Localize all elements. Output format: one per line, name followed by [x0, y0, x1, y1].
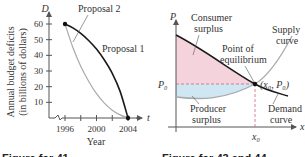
producer-surplus-label-2: surplus	[192, 114, 221, 125]
supply-curve-label-2: curve	[276, 35, 299, 46]
equilibrium-coordinates-label: (x₀, P₀)	[260, 79, 290, 91]
end-point	[126, 116, 130, 120]
figure-canvas: Annual budget deficits (in billions of d…	[0, 0, 305, 157]
proposal-1-line	[65, 24, 128, 118]
x-tick-label: 1996	[56, 124, 75, 134]
start-point	[63, 22, 67, 26]
x-tick-label: 2004	[119, 124, 138, 134]
supply-curve-label-1: Supply	[272, 24, 300, 35]
p-axis-variable: P	[169, 11, 176, 22]
y-axis-title-line-1: Annual budget deficits	[5, 26, 16, 117]
series-group	[63, 22, 130, 120]
demand-curve-label-1: Demand	[268, 103, 302, 114]
producer-surplus-region	[176, 84, 255, 99]
y-tick-label: 50	[34, 35, 44, 45]
equilibrium-label-2: equilibrium	[220, 54, 267, 65]
budget-deficit-chart: Annual budget deficits (in billions of d…	[5, 3, 150, 147]
x0-tick-label: x₀	[251, 131, 260, 142]
y-tick-label: 60	[34, 19, 44, 29]
y-tick-label: 40	[34, 50, 44, 60]
legend-proposal-1-label: Proposal 1	[102, 43, 145, 54]
x-axis-variable: t	[147, 112, 150, 123]
right-figure-caption: Figure for 43 and 44	[162, 152, 267, 157]
proposal-2-line	[65, 24, 128, 118]
consumer-surplus-label-2: surplus	[194, 23, 223, 34]
x-tick-label: 2000	[88, 124, 107, 134]
p0-tick-label: P₀	[157, 79, 168, 90]
y-axis-title-line-2: (in billions of dollars)	[17, 28, 29, 116]
supply-demand-chart: P x P₀ x₀ Consumer surplus Supply curve …	[157, 11, 305, 142]
left-figure-caption: Figure for 41	[2, 152, 69, 157]
y-tick-label: 10	[34, 97, 44, 107]
demand-curve-label-2: curve	[270, 114, 293, 125]
legend-proposal-2-label: Proposal 2	[78, 3, 121, 14]
y-axis-title: Annual budget deficits (in billions of d…	[5, 26, 29, 117]
producer-surplus-label-1: Producer	[190, 103, 227, 114]
x-axis-title: Year	[87, 136, 106, 147]
y-axis-variable: D	[40, 3, 49, 14]
equilibrium-label-1: Point of	[222, 43, 255, 54]
y-tick-label: 30	[34, 66, 44, 76]
consumer-surplus-label-1: Consumer	[191, 12, 233, 23]
equilibrium-point	[253, 82, 257, 86]
x-axis	[49, 115, 138, 120]
x-axis-variable: x	[299, 121, 305, 132]
y-tick-label: 20	[34, 82, 44, 92]
